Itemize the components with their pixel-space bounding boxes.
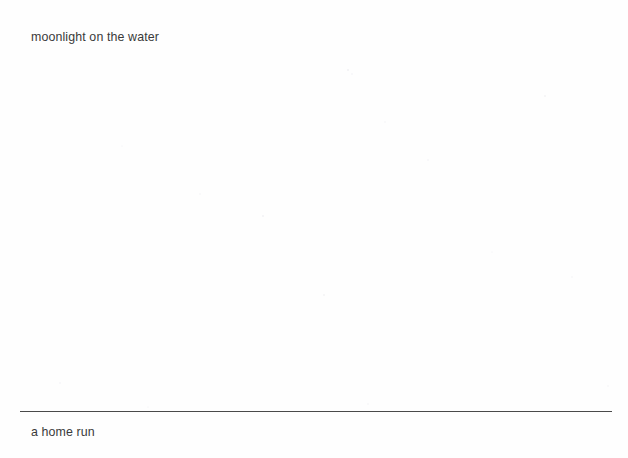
paper-grain bbox=[0, 0, 628, 458]
top-note-text: moonlight on the water bbox=[31, 30, 159, 44]
document-page: moonlight on the water a home run bbox=[0, 0, 628, 458]
horizontal-rule bbox=[20, 411, 612, 412]
bottom-note-text: a home run bbox=[31, 425, 95, 439]
